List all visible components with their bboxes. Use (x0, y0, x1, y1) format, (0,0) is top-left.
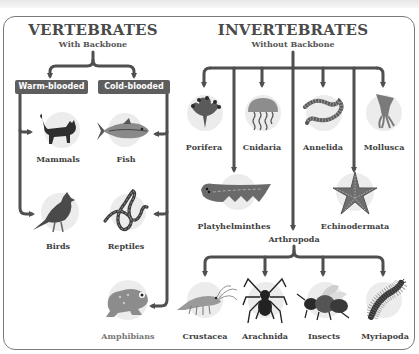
millipede-icon (367, 279, 407, 321)
shrimp-icon (175, 284, 239, 318)
frog-icon (102, 283, 152, 321)
mollusca-label: Mollusca (364, 142, 405, 152)
birds-label: Birds (46, 241, 70, 251)
fish-label: Fish (116, 154, 135, 164)
sponge-icon (185, 94, 225, 130)
flatworm-icon (199, 180, 275, 206)
annelida-label: Annelida (303, 142, 343, 152)
invertebrates-subtitle: Without Backbone (208, 39, 378, 49)
jellyfish-icon (246, 96, 280, 132)
snake-icon (101, 187, 151, 235)
reptiles-label: Reptiles (108, 241, 145, 251)
warm-blooded-tag: Warm-blooded (15, 80, 88, 94)
invertebrates-title: INVERTEBRATES (208, 21, 378, 39)
cardinal-bird-icon (31, 190, 81, 234)
arthropoda-label: Arthropoda (268, 234, 319, 244)
platyhelminthes-label: Platyhelminthes (198, 221, 271, 231)
crustacea-label: Crustacea (183, 331, 228, 341)
myriapoda-label: Myriapoda (361, 331, 409, 341)
vertebrates-title: VERTEBRATES (13, 21, 173, 39)
echinodermata-label: Echinodermata (321, 221, 389, 231)
mammals-label: Mammals (36, 154, 80, 164)
cat-icon (36, 113, 80, 147)
amphibians-label: Amphibians (101, 331, 154, 341)
cnidaria-label: Cnidaria (243, 142, 281, 152)
arachnida-label: Arachnida (242, 331, 288, 341)
starfish-icon (331, 170, 379, 216)
fish-icon (95, 118, 151, 144)
bee-icon (295, 282, 351, 322)
insects-label: Insects (308, 331, 340, 341)
cold-blooded-tag: Cold-blooded (98, 80, 170, 94)
spider-icon (242, 275, 288, 325)
vertebrates-subtitle: With Backbone (13, 39, 173, 49)
squid-icon (370, 92, 400, 130)
worm-icon (301, 97, 345, 127)
porifera-label: Porifera (186, 142, 222, 152)
